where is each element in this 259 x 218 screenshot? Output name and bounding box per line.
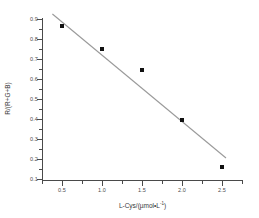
y-axis-ticklabel: 0.4 bbox=[18, 116, 38, 122]
data-point bbox=[60, 24, 64, 28]
y-axis-ticklabel: 0.9 bbox=[18, 16, 38, 22]
chart-container: 0.9 0.8 0.7 0.6 0.5 0.4 0.3 0.2 0.1 0.5 … bbox=[0, 0, 259, 218]
x-axis-title-text: L-Cys/(µmol•L bbox=[119, 202, 160, 209]
x-axis-ticklabel: 1.0 bbox=[91, 187, 113, 193]
y-axis-ticklabel: 0.1 bbox=[18, 176, 38, 182]
x-axis-title: L-Cys/(µmol•L-1) bbox=[42, 200, 243, 210]
x-axis-title-tail: ) bbox=[164, 202, 166, 209]
x-axis-minor-tick bbox=[242, 181, 243, 184]
y-axis-ticklabel: 0.2 bbox=[18, 156, 38, 162]
x-axis-minor-tick bbox=[42, 181, 43, 184]
x-axis-tick-2.0 bbox=[182, 181, 183, 186]
x-axis-tick-0.5 bbox=[62, 181, 63, 186]
data-point bbox=[140, 68, 144, 72]
x-axis-minor-tick bbox=[162, 181, 163, 184]
y-axis-minor-tick bbox=[39, 129, 42, 130]
y-axis-minor-tick bbox=[39, 29, 42, 30]
x-axis-ticklabel: 1.5 bbox=[131, 187, 153, 193]
data-point bbox=[180, 118, 184, 122]
data-point bbox=[220, 165, 224, 169]
y-axis-title: R/(R+G+B) bbox=[3, 44, 12, 154]
x-axis-minor-tick bbox=[82, 181, 83, 184]
y-axis-ticklabel: 0.5 bbox=[18, 96, 38, 102]
y-axis-minor-tick bbox=[39, 169, 42, 170]
y-axis-ticklabel: 0.7 bbox=[18, 56, 38, 62]
x-axis-tick-1.5 bbox=[142, 181, 143, 186]
x-axis-tick-2.5 bbox=[222, 181, 223, 186]
y-axis-minor-tick bbox=[39, 149, 42, 150]
x-axis-ticklabel: 0.5 bbox=[51, 187, 73, 193]
y-axis-minor-tick bbox=[39, 89, 42, 90]
x-axis-ticklabel: 2.0 bbox=[171, 187, 193, 193]
x-axis-ticklabel: 2.5 bbox=[211, 187, 233, 193]
x-axis-tick-1.0 bbox=[102, 181, 103, 186]
y-axis-minor-tick bbox=[39, 69, 42, 70]
x-axis-minor-tick bbox=[122, 181, 123, 184]
y-axis-minor-tick bbox=[39, 49, 42, 50]
y-axis-minor-tick bbox=[39, 109, 42, 110]
x-axis-minor-tick bbox=[202, 181, 203, 184]
y-axis-ticklabel: 0.6 bbox=[18, 76, 38, 82]
data-point bbox=[100, 47, 104, 51]
y-axis-ticklabel: 0.8 bbox=[18, 36, 38, 42]
y-axis-line bbox=[42, 18, 43, 181]
y-axis-ticklabel: 0.3 bbox=[18, 136, 38, 142]
